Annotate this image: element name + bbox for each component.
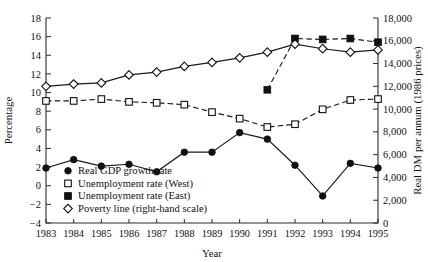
left-tick-label: 16 (31, 31, 42, 42)
data-point-filled-square (65, 193, 72, 200)
x-axis-ticks: 1983198419851986198719881989199019911992… (36, 219, 389, 239)
data-point-filled-circle (347, 160, 354, 167)
x-tick-label: 1987 (146, 228, 167, 239)
y-axis-title: Percentage (2, 97, 14, 145)
x-axis-title: Year (202, 247, 222, 259)
data-point-open-diamond (374, 46, 383, 55)
data-point-filled-square (264, 86, 271, 93)
data-point-filled-circle (292, 162, 299, 169)
data-point-open-diamond (97, 79, 106, 88)
data-point-open-diamond (69, 80, 78, 89)
right-tick-label: 10,000 (383, 104, 412, 115)
data-point-filled-circle (375, 165, 382, 172)
data-point-open-square (319, 106, 326, 113)
right-tick-label: 14,000 (383, 58, 412, 69)
x-tick-label: 1990 (229, 228, 250, 239)
left-tick-label: 14 (31, 50, 42, 61)
left-tick-label: 4 (36, 143, 42, 154)
series-2 (43, 96, 382, 131)
data-point-open-square (65, 180, 72, 187)
data-point-filled-circle (264, 136, 271, 143)
legend-item-4[interactable]: Poverty line (right-hand scale) (64, 203, 208, 215)
left-tick-label: −4 (30, 218, 42, 229)
right-tick-label: 18,000 (383, 13, 412, 24)
data-point-open-square (98, 96, 105, 103)
left-tick-label: 12 (31, 69, 42, 80)
series-4 (42, 40, 383, 91)
data-point-open-diamond (235, 54, 244, 63)
data-point-open-square (209, 109, 216, 116)
data-point-open-diamond (346, 48, 355, 57)
right-tick-label: 0 (383, 218, 388, 229)
data-point-open-square (375, 96, 382, 103)
legend-label: Unemployment rate (East) (78, 190, 191, 202)
left-axis-ticks: −4−2024681012141618 (30, 13, 51, 229)
data-point-open-diamond (125, 71, 134, 80)
data-point-open-square (70, 98, 77, 105)
x-tick-label: 1992 (285, 228, 306, 239)
data-point-open-square (153, 99, 160, 106)
x-tick-label: 1989 (202, 228, 223, 239)
data-point-open-diamond (318, 44, 327, 53)
x-tick-label: 1994 (340, 228, 361, 239)
x-tick-label: 1984 (63, 228, 84, 239)
data-point-open-diamond (64, 204, 73, 213)
data-point-open-square (264, 124, 271, 131)
legend-item-2[interactable]: Unemployment rate (West) (65, 178, 194, 190)
data-point-filled-circle (181, 149, 188, 156)
x-tick-label: 1991 (257, 228, 278, 239)
economic-indicators-line-chart: −4−2024681012141618 02,0004,0006,0008,00… (0, 0, 428, 262)
data-point-filled-circle (319, 193, 326, 200)
x-tick-label: 1993 (312, 228, 333, 239)
x-tick-label: 1986 (119, 228, 140, 239)
y2-axis-title: Real DM per annum (1986 prices) (411, 46, 424, 195)
legend-item-3[interactable]: Unemployment rate (East) (65, 190, 191, 202)
left-tick-label: 10 (31, 87, 42, 98)
left-tick-label: 2 (36, 162, 41, 173)
data-point-open-square (236, 115, 243, 122)
legend-label: Real GDP growth rate (78, 165, 172, 176)
right-tick-label: 12,000 (383, 81, 412, 92)
right-tick-label: 8,000 (383, 126, 407, 137)
chart-legend: Real GDP growth rateUnemployment rate (W… (64, 165, 208, 215)
left-tick-label: 6 (36, 124, 41, 135)
data-point-open-diamond (42, 82, 51, 91)
chart-container: −4−2024681012141618 02,0004,0006,0008,00… (0, 0, 428, 262)
data-point-filled-circle (65, 168, 72, 175)
data-point-filled-square (375, 39, 382, 46)
right-tick-label: 2,000 (383, 195, 407, 206)
right-tick-label: 4,000 (383, 172, 407, 183)
data-point-open-square (292, 121, 299, 128)
left-tick-label: 18 (31, 13, 42, 24)
data-point-filled-circle (236, 129, 243, 136)
data-point-filled-circle (43, 165, 50, 172)
data-point-open-square (181, 101, 188, 108)
data-point-open-diamond (152, 68, 161, 77)
x-tick-label: 1983 (36, 228, 57, 239)
x-tick-label: 1988 (174, 228, 195, 239)
data-point-filled-square (347, 35, 354, 42)
data-point-open-diamond (180, 62, 189, 71)
legend-item-1[interactable]: Real GDP growth rate (65, 165, 173, 176)
data-point-open-square (43, 98, 50, 105)
right-tick-label: 16,000 (383, 35, 412, 46)
data-point-open-square (347, 97, 354, 104)
x-tick-label: 1985 (91, 228, 112, 239)
data-point-filled-circle (70, 156, 77, 163)
left-tick-label: 0 (36, 180, 41, 191)
data-point-open-square (126, 99, 133, 106)
left-tick-label: 8 (36, 106, 41, 117)
data-point-open-diamond (208, 58, 217, 67)
data-point-filled-square (319, 36, 326, 43)
legend-label: Poverty line (right-hand scale) (78, 203, 208, 215)
data-point-open-diamond (263, 48, 272, 57)
x-tick-label: 1995 (368, 228, 389, 239)
legend-label: Unemployment rate (West) (78, 178, 194, 190)
left-tick-label: −2 (30, 199, 41, 210)
data-point-filled-circle (209, 149, 216, 156)
right-tick-label: 6,000 (383, 149, 407, 160)
